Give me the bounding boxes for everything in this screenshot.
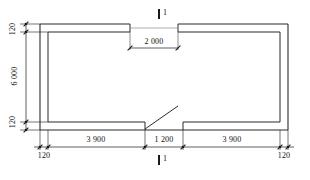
- dim-label-room-depth: 6 000: [11, 59, 19, 93]
- section-marker-top-label: 1: [163, 9, 167, 17]
- floor-plan-drawing: 120 6 000 120 3 900 1 200 3 900 120 120 …: [0, 0, 310, 180]
- dim-label-left-bay: 3 900: [67, 136, 125, 144]
- door-leaf-icon: [145, 106, 178, 129]
- bottom-door-opening: [145, 122, 183, 130]
- dim-label-bottom-left-wall: 120: [32, 152, 56, 160]
- dim-label-bottom-right-wall: 120: [272, 152, 296, 160]
- dim-label-right-bay: 3 900: [203, 136, 261, 144]
- vertical-dimension-chain: [20, 22, 48, 133]
- dim-label-door-bay: 1 200: [143, 136, 185, 144]
- top-window-opening: [130, 24, 178, 32]
- section-marker-bottom-label: 1: [163, 155, 167, 163]
- dim-label-top-wall: 120: [9, 18, 17, 40]
- dim-label-bottom-wall: 120: [9, 111, 17, 133]
- dim-label-window-opening: 2 000: [130, 38, 178, 46]
